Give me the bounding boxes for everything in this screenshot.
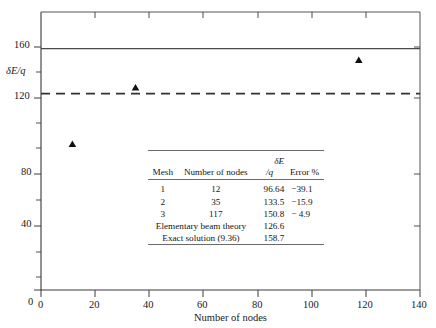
results-table: δE Mesh Number of nodes /q Error % 1 12 … xyxy=(148,150,324,249)
x-tick-label-120: 120 xyxy=(357,300,373,311)
x-tick-label-140: 140 xyxy=(411,300,427,311)
right-frame-ticks xyxy=(414,47,420,226)
data-series-fe-results xyxy=(69,56,363,147)
x-tick-label-40: 40 xyxy=(143,300,154,311)
y-tick-label-160: 160 xyxy=(14,40,30,51)
y-tick-label-80: 80 xyxy=(21,167,32,178)
cell-mesh: 1 xyxy=(148,184,178,196)
y-tick-label-120: 120 xyxy=(14,91,30,102)
x-tick-label-0: 0 xyxy=(38,300,43,311)
x-axis-title: Number of nodes xyxy=(194,313,267,324)
cell-error: −39.1 xyxy=(285,184,324,196)
table-header-value-top: δE xyxy=(254,155,285,166)
cell-error: − 4.9 xyxy=(285,208,324,220)
data-point-mesh-1 xyxy=(69,141,77,148)
y-tick-label-0: 0 xyxy=(28,297,33,308)
table-row: 3 117 150.8 − 4.9 xyxy=(148,208,324,220)
table-summary-row: Exact solution (9.36) 158.7 xyxy=(148,232,324,245)
data-point-mesh-3 xyxy=(355,56,363,63)
x-tick-label-20: 20 xyxy=(89,300,100,311)
x-tick-label-60: 60 xyxy=(197,300,208,311)
figure-container: 160 120 80 40 0 δE/q 0 20 40 60 80 100 1… xyxy=(0,0,436,328)
table-header-row: Mesh Number of nodes /q Error % xyxy=(148,167,324,180)
summary-value-exact-solution: 158.7 xyxy=(254,232,285,245)
summary-label-beam-theory: Elementary beam theory xyxy=(148,220,254,232)
cell-nodes: 12 xyxy=(178,184,254,196)
cell-value: 133.5 xyxy=(254,196,285,208)
top-frame-ticks xyxy=(95,12,366,18)
summary-value-beam-theory: 126.6 xyxy=(254,220,285,232)
cell-value: 150.8 xyxy=(254,208,285,220)
table-row: 1 12 96.64 −39.1 xyxy=(148,184,324,196)
y-axis-ticks xyxy=(34,47,41,290)
cell-value: 96.64 xyxy=(254,184,285,196)
table-summary-row: Elementary beam theory 126.6 xyxy=(148,220,324,232)
x-axis-ticks xyxy=(41,290,420,297)
cell-mesh: 3 xyxy=(148,208,178,220)
table-row: 2 35 133.5 −15.9 xyxy=(148,196,324,208)
table-header-mesh: Mesh xyxy=(148,167,178,180)
summary-label-exact-solution: Exact solution (9.36) xyxy=(148,232,254,245)
cell-error: −15.9 xyxy=(285,196,324,208)
table-header-unit-row: δE xyxy=(148,155,324,166)
cell-nodes: 117 xyxy=(178,208,254,220)
y-axis-label: δE/q xyxy=(6,66,25,77)
table-header-value-bottom: /q xyxy=(254,167,285,180)
table-rule-bottom xyxy=(148,245,324,250)
y-tick-label-40: 40 xyxy=(21,219,32,230)
cell-nodes: 35 xyxy=(178,196,254,208)
cell-mesh: 2 xyxy=(148,196,178,208)
table-header-nodes: Number of nodes xyxy=(178,167,254,180)
table-header-error: Error % xyxy=(285,167,324,180)
x-tick-label-80: 80 xyxy=(252,300,263,311)
x-tick-label-100: 100 xyxy=(303,300,319,311)
data-point-mesh-2 xyxy=(132,84,140,91)
